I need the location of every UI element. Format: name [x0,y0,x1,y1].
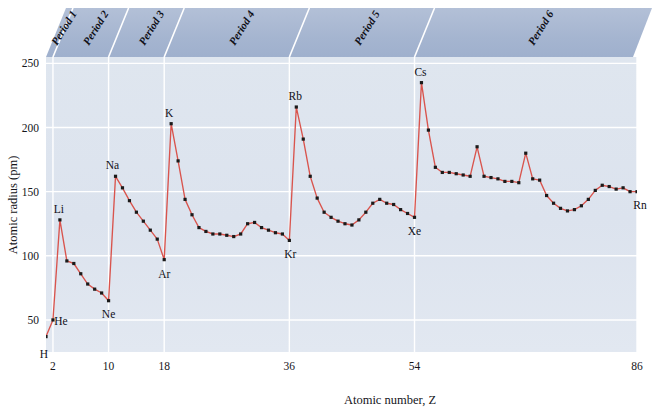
data-point [232,235,235,238]
data-point [510,180,513,183]
data-point [385,202,388,205]
data-point [211,232,214,235]
element-label: Li [54,203,64,215]
data-point [608,185,611,188]
data-point [413,216,416,219]
period-band-shape [46,8,652,57]
x-tick-label: 2 [50,360,56,372]
data-point [517,181,520,184]
data-point [44,335,47,338]
data-point [128,199,131,202]
data-point [615,188,618,191]
data-point [545,194,548,197]
element-label: K [165,107,174,119]
y-tick-label: 250 [22,57,40,69]
element-label: Ne [102,308,115,320]
y-axis-tick-labels: 50100150200250 [22,57,40,326]
data-point [552,202,555,205]
data-point [538,179,541,182]
data-point [86,282,89,285]
data-point [225,234,228,237]
data-point [336,220,339,223]
data-point [288,239,291,242]
data-point [427,129,430,132]
y-tick-label: 200 [22,122,40,134]
data-point [503,180,506,183]
data-point [197,226,200,229]
data-point [434,166,437,169]
x-tick-label: 36 [284,360,296,372]
data-point [462,173,465,176]
data-point [364,211,367,214]
data-point [218,232,221,235]
element-label: Na [106,159,119,171]
data-point [496,177,499,180]
data-point [323,211,326,214]
element-label: He [54,315,67,327]
data-point [163,258,166,261]
data-point [573,208,576,211]
data-point [156,238,159,241]
data-point [239,232,242,235]
data-point [121,186,124,189]
data-point [114,175,117,178]
data-point [58,218,61,221]
y-axis-title: Atomic radius (pm) [6,156,20,255]
data-point [378,198,381,201]
data-point [170,122,173,125]
data-point [65,259,68,262]
data-point [371,202,374,205]
data-point [566,209,569,212]
data-point [107,299,110,302]
element-label: Xe [408,225,421,237]
x-tick-label: 18 [158,360,170,372]
data-point [302,137,305,140]
data-point [246,222,249,225]
data-point [190,213,193,216]
data-point [399,208,402,211]
data-point [455,172,458,175]
data-point [621,186,624,189]
x-axis-tick-labels: 21018365486 [50,360,643,372]
element-label: H [40,348,48,360]
data-point [489,176,492,179]
element-label: Kr [284,248,296,260]
data-point [601,184,604,187]
data-point [392,203,395,206]
data-point [72,262,75,265]
data-point [253,221,256,224]
x-axis-title: Atomic number, Z [344,393,436,407]
data-point [635,190,638,193]
element-label: Rb [289,90,303,102]
element-label: Rn [633,199,647,211]
data-point [281,232,284,235]
data-point [177,159,180,162]
data-point [420,81,423,84]
data-point [482,175,485,178]
x-tick-label: 10 [103,360,115,372]
plot-background [46,57,637,352]
data-point [628,190,631,193]
data-point [329,216,332,219]
data-point [267,229,270,232]
period-band-group: Period 1Period 2Period 3Period 4Period 5… [46,8,652,57]
data-point [469,175,472,178]
data-point [316,196,319,199]
data-point [93,288,96,291]
data-point [587,198,590,201]
data-point [350,223,353,226]
y-tick-label: 100 [22,250,40,262]
data-point [183,198,186,201]
data-point [142,220,145,223]
data-point [204,230,207,233]
data-point [524,152,527,155]
data-point [274,231,277,234]
atomic-radius-chart-figure: Period 1Period 2Period 3Period 4Period 5… [0,0,657,414]
data-point [580,204,583,207]
data-point [475,145,478,148]
data-point [406,212,409,215]
data-point [531,177,534,180]
element-label: Ar [158,268,170,280]
data-point [135,211,138,214]
chart-svg: Period 1Period 2Period 3Period 4Period 5… [0,0,657,414]
